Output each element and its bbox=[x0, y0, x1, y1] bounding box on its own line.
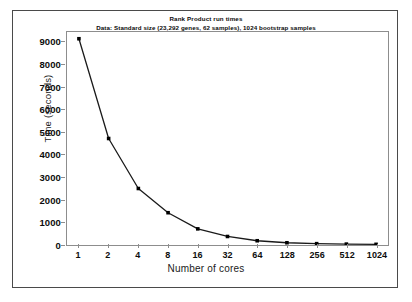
x-axis-tick-mark bbox=[198, 244, 199, 248]
x-axis-label: Number of cores bbox=[13, 263, 399, 274]
y-axis-tick-label: 3000 bbox=[15, 172, 61, 183]
y-axis-tick-label: 2000 bbox=[15, 195, 61, 206]
y-axis-tick: 2000 bbox=[13, 195, 61, 207]
data-point-marker bbox=[166, 211, 170, 215]
y-axis-tick-mark bbox=[61, 41, 65, 42]
x-axis-tick-label: 1024 bbox=[357, 250, 397, 260]
x-axis-tick-mark bbox=[78, 244, 79, 248]
y-axis-tick: 3000 bbox=[13, 172, 61, 184]
y-axis-tick-mark bbox=[61, 200, 65, 201]
y-axis-tick-labels: 0100020003000400050006000700080009000 bbox=[13, 31, 61, 246]
x-axis-tick-mark bbox=[168, 244, 169, 248]
data-point-marker bbox=[107, 137, 111, 141]
chart-title: Rank Product run times bbox=[13, 14, 399, 23]
y-axis-tick-mark bbox=[61, 109, 65, 110]
y-axis-tick-label: 6000 bbox=[15, 104, 61, 115]
x-axis-tick-labels: 12481632641282565121024 bbox=[66, 250, 389, 264]
y-axis-tick-mark bbox=[61, 177, 65, 178]
x-axis-tick-mark bbox=[377, 244, 378, 248]
y-axis-tick: 6000 bbox=[13, 104, 61, 116]
x-axis-tick-mark bbox=[347, 244, 348, 248]
y-axis-tick-label: 4000 bbox=[15, 149, 61, 160]
data-point-marker bbox=[137, 187, 141, 191]
x-axis-tick-mark bbox=[287, 244, 288, 248]
y-axis-tick-label: 8000 bbox=[15, 59, 61, 70]
y-axis-tick-label: 0 bbox=[15, 240, 61, 251]
y-axis-tick-mark bbox=[61, 245, 65, 246]
series-line bbox=[79, 39, 376, 245]
title-block: Rank Product run times Data: Standard si… bbox=[13, 14, 399, 32]
data-point-marker bbox=[77, 37, 81, 41]
y-axis-tick-mark bbox=[61, 87, 65, 88]
y-axis-tick-label: 7000 bbox=[15, 82, 61, 93]
y-axis-tick: 9000 bbox=[13, 36, 61, 48]
y-axis-tick-label: 9000 bbox=[15, 36, 61, 47]
figure: Rank Product run times Data: Standard si… bbox=[0, 0, 412, 302]
data-point-marker bbox=[196, 227, 200, 231]
y-axis-tick: 5000 bbox=[13, 127, 61, 139]
data-point-marker bbox=[255, 239, 259, 243]
x-axis-tick-mark bbox=[228, 244, 229, 248]
y-axis-tick-label: 5000 bbox=[15, 127, 61, 138]
y-axis-tick: 8000 bbox=[13, 59, 61, 71]
plot-series-svg bbox=[67, 32, 388, 245]
y-axis-tick-mark bbox=[61, 132, 65, 133]
x-axis-tick-mark bbox=[108, 244, 109, 248]
y-axis-tick-mark bbox=[61, 222, 65, 223]
y-axis-tick-mark bbox=[61, 64, 65, 65]
y-axis-tick: 1000 bbox=[13, 217, 61, 229]
y-axis-tick-label: 1000 bbox=[15, 217, 61, 228]
figure-border: Rank Product run times Data: Standard si… bbox=[12, 10, 398, 288]
data-point-marker bbox=[226, 235, 230, 239]
x-axis-tick-mark bbox=[257, 244, 258, 248]
plot-panel bbox=[66, 31, 389, 246]
y-axis-tick-mark bbox=[61, 154, 65, 155]
y-axis-tick: 4000 bbox=[13, 149, 61, 161]
y-axis-tick: 7000 bbox=[13, 82, 61, 94]
x-axis-tick-mark bbox=[317, 244, 318, 248]
y-axis-tick: 0 bbox=[13, 240, 61, 252]
x-axis-tick-mark bbox=[138, 244, 139, 248]
